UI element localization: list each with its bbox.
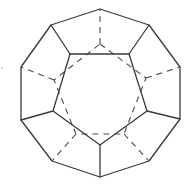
front-edge xyxy=(21,111,53,120)
hidden-edge xyxy=(52,134,76,161)
front-pentagon xyxy=(53,54,147,145)
dodecahedron-figure xyxy=(0,0,192,190)
hidden-edges xyxy=(21,9,180,161)
visible-edges xyxy=(21,9,180,177)
front-edge xyxy=(51,25,70,54)
stray-mark xyxy=(1,67,3,69)
hidden-edge xyxy=(124,134,149,161)
front-edge xyxy=(147,111,180,119)
hidden-edge xyxy=(146,67,180,78)
dodecahedron-drawing xyxy=(0,0,192,190)
hidden-edge xyxy=(21,67,54,80)
front-edge xyxy=(129,25,149,54)
hidden-pentagon xyxy=(54,44,146,134)
